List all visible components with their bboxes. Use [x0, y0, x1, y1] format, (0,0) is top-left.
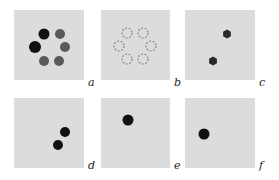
panel-f	[185, 98, 255, 168]
dot	[138, 28, 148, 38]
panel-d	[14, 98, 84, 168]
dot	[53, 140, 63, 150]
panel-c	[185, 10, 255, 80]
dot	[114, 41, 124, 51]
dot	[199, 129, 210, 140]
dot	[60, 127, 70, 137]
dot	[138, 54, 148, 64]
dot	[209, 57, 217, 66]
dot	[54, 56, 64, 66]
panel-label-e: e	[174, 160, 181, 171]
panel-e	[101, 98, 170, 168]
panel-label-d: d	[88, 160, 95, 171]
dot	[39, 29, 50, 40]
panel-label-a: a	[88, 77, 95, 88]
panel-label-b: b	[174, 77, 181, 88]
dot	[39, 56, 49, 66]
dot	[223, 30, 231, 39]
panel-label-c: c	[259, 77, 265, 88]
panel-a	[14, 10, 84, 80]
dot	[122, 54, 132, 64]
dot	[123, 115, 134, 126]
panel-b	[101, 10, 170, 80]
dot	[29, 41, 41, 53]
dot	[60, 42, 70, 52]
dot	[146, 41, 156, 51]
dot	[55, 29, 65, 39]
dot	[122, 28, 132, 38]
panel-label-f: f	[259, 160, 263, 171]
